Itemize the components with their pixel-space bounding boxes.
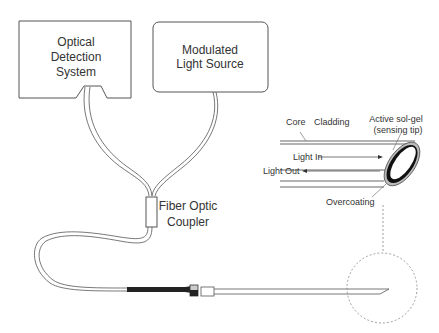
detection-label-2: Detection <box>51 50 102 64</box>
sol-gel-label-1: Active sol-gel <box>369 114 423 124</box>
fiber-detail: Core Cladding Active sol-gel (sensing ti… <box>263 114 427 207</box>
light-source-label-2: Light Source <box>176 57 244 71</box>
cladding-label: Cladding <box>314 117 350 127</box>
probe-sheath <box>127 286 192 293</box>
modulated-light-source-box: Modulated Light Source <box>153 22 268 92</box>
light-in-label: Light In <box>293 152 323 162</box>
fiber-probe-cable <box>34 227 152 291</box>
fiber-source-branch <box>152 92 218 196</box>
detection-label-3: System <box>56 65 96 79</box>
sol-gel-label-2: (sensing tip) <box>373 125 422 135</box>
coupler-label-2: Coupler <box>167 215 209 229</box>
optical-detection-system-box: Optical Detection System <box>19 21 131 98</box>
magnification-circle <box>347 253 417 323</box>
probe-connector <box>190 285 214 296</box>
needle-probe <box>214 289 389 294</box>
light-out-label: Light Out <box>263 166 300 176</box>
coupler-label-1: Fiber Optic <box>159 199 218 213</box>
fiber-detection-branch <box>84 87 152 196</box>
core-label: Core <box>286 117 306 127</box>
light-source-label-1: Modulated <box>182 43 238 57</box>
overcoating-label: Overcoating <box>326 197 375 207</box>
detection-label-1: Optical <box>57 35 94 49</box>
fiber-optic-coupler: Fiber Optic Coupler <box>146 197 217 229</box>
fiber-optic-sensor-diagram: Optical Detection System Modulated Light… <box>0 0 439 333</box>
